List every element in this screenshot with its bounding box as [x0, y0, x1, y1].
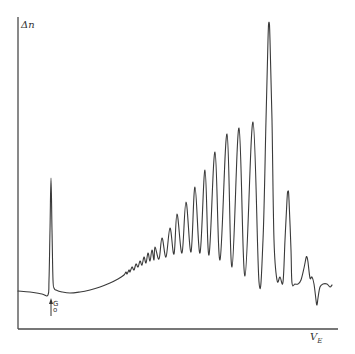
spectrum-curve [18, 22, 332, 305]
x-axis-label: VE [310, 332, 322, 345]
x-axis-label-sub: E [317, 337, 322, 345]
g0-annotation: G o [53, 301, 58, 313]
y-axis-label: Δn [21, 20, 35, 30]
